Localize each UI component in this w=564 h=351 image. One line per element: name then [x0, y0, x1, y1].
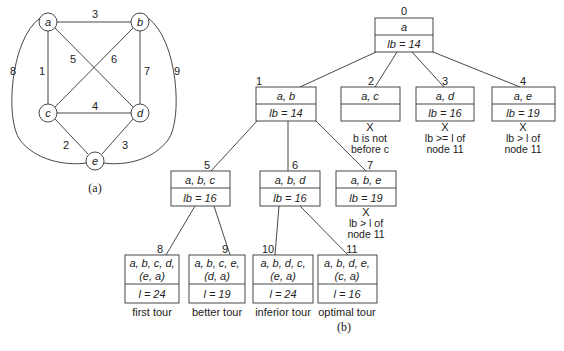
node-path-line2: (e, a)	[139, 270, 165, 282]
prune-reason-line2: before c	[351, 143, 389, 155]
node-path-line2: (d, a)	[204, 270, 230, 282]
tree-edge-5-8	[166, 206, 195, 255]
tree-edge-6-11	[300, 206, 348, 255]
svg-text:c: c	[45, 107, 51, 119]
node-tour-length: l = 16	[333, 288, 361, 300]
diagram-canvas: 3 1 5 8 6 7 9 4 2 3 a b c d e (a)	[0, 0, 564, 351]
tree-edge-1-5	[211, 121, 257, 171]
node-bound: lb = 14	[387, 38, 420, 50]
tree-node-9: 9 a, b, c, e, (d, a) l = 19 better tour	[189, 243, 245, 318]
weight-a-b: 3	[92, 8, 98, 20]
node-path-line1: a, b, c, e,	[194, 257, 239, 269]
weight-a-d: 5	[70, 53, 76, 65]
node-number: 2	[368, 75, 374, 87]
node-path: a, d	[436, 90, 455, 102]
weight-a-c: 1	[39, 65, 45, 77]
node-path: a, b, e	[351, 174, 382, 186]
edge-d-e	[102, 119, 133, 154]
node-path: a, e	[514, 90, 532, 102]
node-bound: lb = 19	[349, 192, 382, 204]
node-path: a, b, d	[275, 174, 306, 186]
svg-text:b: b	[137, 16, 143, 28]
tree-node-5: 5 a, b, c lb = 16	[171, 159, 230, 206]
node-path-line1: a, b, c, d,	[129, 257, 174, 269]
tree-edge-0-3	[412, 52, 444, 87]
vertex-e: e	[86, 152, 104, 170]
node-number: 0	[401, 5, 407, 17]
node-tour-length: l = 24	[138, 288, 165, 300]
weight-c-e: 2	[63, 139, 69, 151]
tour-label: first tour	[132, 306, 172, 318]
node-path: a	[401, 21, 407, 33]
state-space-tree: 0 a lb = 14 1 a, b lb = 14 2 a, c X b is…	[125, 5, 555, 334]
tour-label: optimal tour	[318, 306, 376, 318]
node-number: 7	[367, 159, 373, 171]
node-bound: lb = 16	[428, 107, 462, 119]
vertex-a: a	[39, 13, 57, 31]
caption-a: (a)	[88, 181, 101, 195]
tree-node-1: 1 a, b lb = 14	[256, 75, 316, 121]
node-number: 1	[256, 75, 262, 87]
tree-edge-6-10	[275, 206, 279, 255]
node-number: 6	[292, 159, 298, 171]
tree-node-0: 0 a lb = 14	[375, 5, 433, 52]
edge-a-e	[12, 18, 86, 164]
svg-text:d: d	[137, 107, 144, 119]
node-path-line2: (e, a)	[270, 270, 296, 282]
tree-node-10: 10 a, b, d, c, (e, a) l = 24 inferior to…	[253, 243, 313, 318]
tree-edge-0-1	[300, 52, 376, 87]
tree-node-4: 4 a, e lb = 19 X lb > l of node 11	[492, 75, 555, 155]
node-bound: lb = 16	[273, 192, 307, 204]
svg-text:a: a	[45, 16, 51, 28]
tree-node-7: 7 a, b, e lb = 19 X lb > l of node 11	[336, 159, 396, 240]
tree-edge-0-2	[375, 52, 397, 87]
caption-b: (b)	[337, 320, 351, 334]
node-path-line2: (c, a)	[334, 270, 359, 282]
node-number: 3	[442, 75, 448, 87]
vertex-d: d	[131, 104, 149, 122]
node-tour-length: l = 19	[203, 288, 230, 300]
prune-reason-line2: node 11	[426, 143, 463, 155]
node-path: a, c	[361, 90, 379, 102]
node-number: 8	[157, 243, 163, 255]
node-tour-length: l = 24	[269, 288, 296, 300]
vertex-c: c	[39, 104, 57, 122]
tour-label: inferior tour	[255, 306, 311, 318]
prune-reason-line2: node 11	[347, 228, 384, 240]
tour-label: better tour	[192, 306, 242, 318]
weight-b-e: 9	[174, 65, 180, 77]
weight-b-d: 7	[144, 65, 150, 77]
node-bound: lb = 14	[269, 107, 302, 119]
vertex-b: b	[131, 13, 149, 31]
graph: 3 1 5 8 6 7 9 4 2 3 a b c d e (a)	[10, 8, 180, 195]
node-path: a, b, c	[185, 174, 215, 186]
tree-node-2: 2 a, c X b is not before c	[341, 75, 400, 155]
node-number: 11	[346, 243, 357, 255]
tree-node-3: 3 a, d lb = 16 X lb >= l of node 11	[416, 75, 474, 155]
node-number: 9	[222, 243, 228, 255]
tree-node-11: 11 a, b, d, e, (c, a) l = 16 optimal tou…	[318, 243, 377, 318]
weight-d-e: 3	[122, 139, 128, 151]
weight-c-d: 4	[92, 100, 98, 112]
node-number: 5	[204, 159, 210, 171]
tree-node-6: 6 a, b, d lb = 16	[260, 159, 320, 206]
edge-c-e	[55, 119, 88, 154]
node-path-line1: a, b, d, e,	[324, 257, 370, 269]
node-path-line1: a, b, d, c,	[260, 257, 305, 269]
node-number: 10	[262, 243, 274, 255]
tree-node-8: 8 a, b, c, d, (e, a) l = 24 first tour	[125, 243, 179, 318]
node-path: a, b	[277, 90, 295, 102]
svg-text:e: e	[92, 155, 98, 167]
node-number: 4	[520, 75, 526, 87]
prune-reason-line2: node 11	[504, 143, 541, 155]
node-bound: lb = 16	[183, 192, 217, 204]
weight-b-c: 6	[111, 53, 117, 65]
node-bound: lb = 19	[506, 107, 539, 119]
weight-a-e: 8	[10, 65, 16, 77]
